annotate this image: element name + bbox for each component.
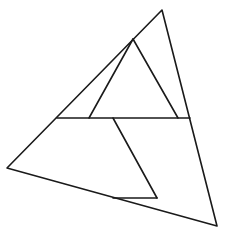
- geometric-diagram: [0, 0, 232, 228]
- inner-triangle-right-edge: [133, 39, 178, 118]
- branch-diagonal-edge: [113, 118, 157, 198]
